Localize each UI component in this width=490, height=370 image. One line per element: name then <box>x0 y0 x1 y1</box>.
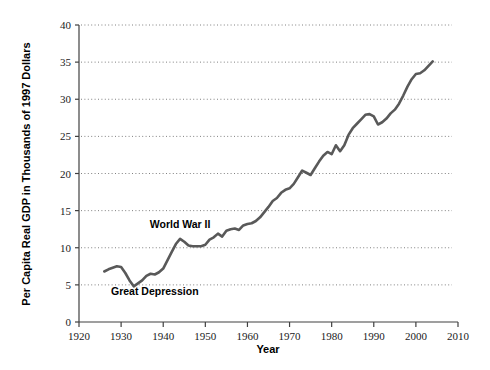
x-axis-tick-label: 1990 <box>363 330 386 342</box>
y-axis-tick-label: 20 <box>60 168 72 180</box>
x-axis-tick-label: 1920 <box>68 330 91 342</box>
y-axis-tick-label: 0 <box>66 316 72 328</box>
chart-background <box>0 0 490 370</box>
x-axis-tick-label: 1940 <box>152 330 175 342</box>
y-axis-tick-label: 10 <box>60 242 72 254</box>
y-axis-tick-label: 35 <box>60 56 72 68</box>
x-axis-tick-label: 1960 <box>236 330 259 342</box>
annotation-world-war-ii: World War II <box>150 218 211 230</box>
gdp-line-chart-figure: 0510152025303540 19201930194019501960197… <box>0 0 490 370</box>
x-axis-tick-label: 1980 <box>321 330 344 342</box>
x-axis-title: Year <box>256 343 280 355</box>
y-axis-tick-label: 30 <box>60 93 72 105</box>
y-axis-tick-label: 25 <box>60 130 72 142</box>
y-axis-tick-label: 15 <box>60 205 72 217</box>
y-axis-tick-label: 40 <box>60 19 72 31</box>
x-axis-tick-label: 1970 <box>279 330 302 342</box>
y-axis-title: Per Capita Real GDP in Thousands of 1997… <box>20 42 32 305</box>
y-axis-tick-label: 5 <box>66 279 72 291</box>
annotation-great-depression: Great Depression <box>111 285 199 297</box>
x-axis-tick-label: 1950 <box>194 330 217 342</box>
x-axis-tick-label: 1930 <box>110 330 133 342</box>
x-axis-tick-label: 2000 <box>405 330 428 342</box>
chart-canvas: 0510152025303540 19201930194019501960197… <box>0 0 490 370</box>
x-axis-tick-label: 2010 <box>447 330 470 342</box>
